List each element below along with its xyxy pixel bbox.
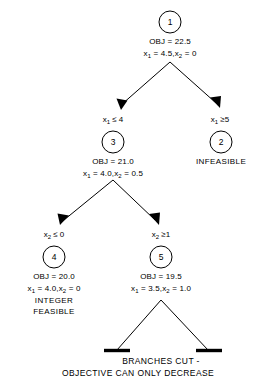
node-2[interactable]: 2 INFEASIBLE <box>196 131 246 166</box>
node-5-variables: x1 = 3.5,x2 = 1.0 <box>131 284 191 294</box>
node-4-variables: x1 = 4.0,x2 = 0 <box>28 284 81 294</box>
node-1-x1-value: = 4.5, <box>151 49 175 58</box>
node-2-status: INFEASIBLE <box>196 157 246 166</box>
node-4-number: 4 <box>52 252 57 262</box>
branch-label-node1-right-cond: ≥5 <box>218 115 230 124</box>
branch-label-node3-left: x2 ≤ 0 <box>44 230 65 240</box>
branches-cut-caption-line-1: BRANCHES CUT - <box>122 356 200 366</box>
branches-cut-caption: BRANCHES CUT - OBJECTIVE CAN ONLY DECREA… <box>62 356 214 378</box>
node-2-number: 2 <box>219 137 224 147</box>
node-5-x1-value: = 3.5, <box>139 284 163 293</box>
edges-level-1 <box>117 62 222 110</box>
branch-label-node3-right: x2 ≥1 <box>152 230 171 240</box>
branches-cut-caption-line-2: OBJECTIVE CAN ONLY DECREASE <box>62 368 214 378</box>
node-1-variables: x1 = 4.5,x2 = 0 <box>144 49 197 59</box>
edge-node5-to-cut-left <box>117 300 161 350</box>
branch-label-node3-left-cond: ≤ 0 <box>51 230 65 239</box>
node-4[interactable]: 4 OBJ = 20.0 x1 = 4.0,x2 = 0 INTEGER FEA… <box>28 246 81 316</box>
arrowhead-node1-to-node2 <box>210 96 221 108</box>
node-3[interactable]: 3 OBJ = 21.0 x1 = 4.0,x2 = 0.5 <box>83 131 143 179</box>
node-1-objective: OBJ = 22.5 <box>149 37 191 46</box>
edge-node5-to-cut-right <box>161 300 208 350</box>
node-4-objective: OBJ = 20.0 <box>33 272 75 281</box>
edges-level-2 <box>58 180 161 225</box>
node-5-number: 5 <box>159 252 164 262</box>
arrowhead-node3-to-node4 <box>58 214 70 226</box>
node-3-number: 3 <box>111 137 116 147</box>
branch-label-node1-left: x1 ≤ 4 <box>103 115 124 125</box>
node-4-status-line-2: FEASIBLE <box>33 307 74 316</box>
edge-node3-to-node5 <box>113 180 155 220</box>
node-4-x1-value: = 4.0, <box>35 284 59 293</box>
arrowhead-node3-to-node5 <box>149 213 160 226</box>
branch-and-bound-diagram: 1 OBJ = 22.5 x1 = 4.5,x2 = 0 x1 ≤ 4 x1 ≥… <box>0 0 259 387</box>
node-4-x2-value: = 0 <box>66 284 81 293</box>
node-5-objective: OBJ = 19.5 <box>140 272 182 281</box>
edges-cut-branches <box>104 300 222 351</box>
branch-label-node1-right: x1 ≥5 <box>211 115 230 125</box>
node-5-x2-value: = 1.0 <box>170 284 192 293</box>
node-3-x1-value: = 4.0, <box>91 169 115 178</box>
node-3-x2-value: = 0.5 <box>122 169 144 178</box>
node-5[interactable]: 5 OBJ = 19.5 x1 = 3.5,x2 = 1.0 <box>131 246 191 294</box>
node-3-variables: x1 = 4.0,x2 = 0.5 <box>83 169 143 179</box>
node-3-objective: OBJ = 21.0 <box>92 157 134 166</box>
node-1-number: 1 <box>168 17 173 27</box>
node-4-status-line-1: INTEGER <box>35 296 73 305</box>
edge-node3-to-node4 <box>64 180 113 220</box>
edge-node1-to-node2 <box>170 62 216 103</box>
arrowhead-node1-to-node3 <box>117 99 128 111</box>
branch-label-node1-left-cond: ≤ 4 <box>110 115 124 124</box>
node-1-x2-value: = 0 <box>182 49 197 58</box>
branch-label-node3-right-cond: ≥1 <box>159 230 171 239</box>
edge-node1-to-node3 <box>121 62 170 105</box>
tree-svg: 1 OBJ = 22.5 x1 = 4.5,x2 = 0 x1 ≤ 4 x1 ≥… <box>0 0 259 387</box>
node-1[interactable]: 1 OBJ = 22.5 x1 = 4.5,x2 = 0 <box>144 11 197 59</box>
